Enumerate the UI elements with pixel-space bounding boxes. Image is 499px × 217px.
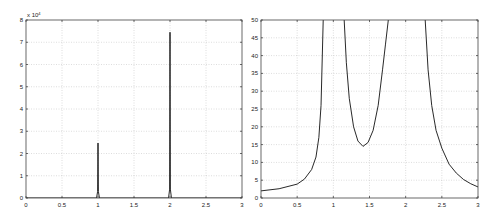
y-tick-label: 2 bbox=[20, 151, 24, 157]
x-tick-label: 0 bbox=[259, 202, 263, 208]
x-tick-label: 1.5 bbox=[130, 202, 139, 208]
x-tick-label: 1 bbox=[96, 202, 100, 208]
y-tick-label: 35 bbox=[251, 70, 258, 76]
x-tick-label: 0.5 bbox=[58, 202, 67, 208]
x-tick-label: 1.5 bbox=[365, 202, 374, 208]
y-tick-label: 8 bbox=[20, 17, 24, 23]
y-tick-label: 20 bbox=[251, 124, 258, 130]
x-tick-label: 3 bbox=[476, 202, 480, 208]
y-tick-label: 0 bbox=[255, 195, 259, 201]
x-tick-label: 2 bbox=[168, 202, 172, 208]
y-tick-label: 4 bbox=[20, 106, 24, 112]
x-tick-label: 0.5 bbox=[293, 202, 302, 208]
y-tick-label: 6 bbox=[20, 62, 24, 68]
y-tick-label: 40 bbox=[251, 53, 258, 59]
x-tick-label: 0 bbox=[24, 202, 28, 208]
y-tick-label: 1 bbox=[20, 173, 24, 179]
y-tick-label: 30 bbox=[251, 88, 258, 94]
x-tick-label: 2.5 bbox=[202, 202, 211, 208]
y-tick-label: 15 bbox=[251, 142, 258, 148]
left-chart-spectrum: 00.511.522.53012345678x 104 bbox=[20, 11, 245, 208]
data-line-segment-3 bbox=[425, 20, 478, 187]
x-tick-label: 2.5 bbox=[438, 202, 447, 208]
right-chart-response: 00.511.522.5305101520253035404550 bbox=[251, 17, 480, 208]
x-tick-label: 2 bbox=[404, 202, 408, 208]
data-line-segment-1 bbox=[261, 20, 323, 191]
x-tick-label: 1 bbox=[332, 202, 336, 208]
y-tick-label: 5 bbox=[20, 84, 24, 90]
y-tick-label: 0 bbox=[20, 195, 24, 201]
y-tick-label: 7 bbox=[20, 39, 24, 45]
figure: 00.511.522.53012345678x 104 00.511.522.5… bbox=[0, 0, 499, 217]
y-tick-label: 25 bbox=[251, 106, 258, 112]
data-line-segment-2 bbox=[344, 20, 388, 146]
y-tick-label: 5 bbox=[255, 177, 259, 183]
y-tick-label: 50 bbox=[251, 17, 258, 23]
y-tick-label: 45 bbox=[251, 35, 258, 41]
y-multiplier-label: x 104 bbox=[27, 11, 41, 18]
y-tick-label: 10 bbox=[251, 159, 258, 165]
y-tick-label: 3 bbox=[20, 128, 24, 134]
x-tick-label: 3 bbox=[240, 202, 244, 208]
